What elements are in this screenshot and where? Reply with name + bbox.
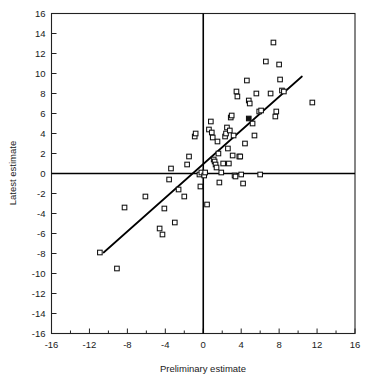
y-tick-label: 14 — [35, 28, 46, 39]
data-point — [247, 101, 252, 106]
data-point — [239, 172, 244, 177]
y-tick-label: -6 — [37, 228, 45, 239]
data-point — [245, 78, 250, 83]
data-point — [167, 177, 172, 182]
data-point — [219, 170, 224, 175]
data-points — [98, 40, 315, 271]
data-point — [176, 187, 181, 192]
y-tick-label: -10 — [32, 268, 46, 279]
data-point — [205, 202, 210, 207]
y-tick-label: 2 — [40, 148, 45, 159]
x-tick-label: -4 — [161, 339, 169, 350]
data-point — [157, 226, 162, 231]
x-tick-label: 16 — [350, 339, 361, 350]
data-point — [209, 130, 214, 135]
data-point-highlighted — [246, 116, 251, 121]
data-point — [252, 133, 257, 138]
x-tick-label: 8 — [276, 339, 281, 350]
data-point — [221, 161, 226, 166]
data-point — [250, 121, 255, 126]
data-point — [169, 166, 174, 171]
x-tick-label: -12 — [83, 339, 97, 350]
data-point — [238, 154, 243, 159]
data-point — [254, 91, 259, 96]
y-tick-label: 8 — [40, 88, 45, 99]
data-point — [310, 100, 315, 105]
data-point — [182, 194, 187, 199]
data-point — [274, 109, 279, 114]
data-point — [143, 194, 148, 199]
data-point — [193, 131, 198, 136]
data-point — [209, 119, 214, 124]
data-point — [231, 133, 236, 138]
plot-canvas: -16-12-8-40481216-16-14-12-10-8-6-4-2024… — [0, 0, 375, 380]
data-point — [230, 153, 235, 158]
x-axis-title: Preliminary estimate — [160, 363, 246, 374]
data-point — [227, 161, 232, 166]
y-tick-label: -16 — [32, 328, 46, 339]
data-point — [122, 205, 127, 210]
data-point — [229, 113, 234, 118]
data-point — [160, 232, 165, 237]
data-point — [234, 89, 239, 94]
data-point — [214, 165, 219, 170]
data-point — [210, 135, 215, 140]
y-tick-label: 12 — [35, 48, 46, 59]
y-tick-label: -2 — [37, 188, 45, 199]
data-point — [216, 151, 221, 156]
y-tick-label: -4 — [37, 208, 45, 219]
data-point — [187, 154, 192, 159]
x-tick-label: -8 — [123, 339, 131, 350]
data-point — [241, 181, 246, 186]
data-point — [217, 180, 222, 185]
y-tick-label: -14 — [32, 308, 46, 319]
data-point — [185, 162, 190, 167]
y-tick-label: -8 — [37, 248, 45, 259]
x-tick-label: 4 — [239, 339, 244, 350]
data-point — [173, 220, 178, 225]
y-tick-label: 6 — [40, 108, 45, 119]
y-tick-label: -12 — [32, 288, 46, 299]
data-point — [277, 62, 282, 67]
x-tick-label: 0 — [201, 339, 206, 350]
data-point — [264, 59, 269, 64]
data-point — [162, 206, 167, 211]
data-point — [226, 146, 231, 151]
data-point — [228, 128, 233, 133]
data-point — [282, 89, 287, 94]
y-axis-title: Latest estimate — [7, 141, 18, 205]
data-point — [98, 250, 103, 255]
data-point — [115, 266, 120, 271]
scatter-plot-figure: -16-12-8-40481216-16-14-12-10-8-6-4-2024… — [0, 0, 375, 380]
y-tick-label: 4 — [40, 128, 45, 139]
data-point — [259, 108, 264, 113]
data-point — [278, 77, 283, 82]
data-point — [203, 170, 208, 175]
data-point — [215, 139, 220, 144]
y-tick-label: 0 — [40, 168, 45, 179]
data-point — [273, 114, 278, 119]
data-point — [268, 91, 273, 96]
y-tick-label: 10 — [35, 68, 46, 79]
data-point — [258, 172, 263, 177]
data-point — [271, 40, 276, 45]
x-tick-label: -16 — [45, 339, 59, 350]
data-point — [198, 184, 203, 189]
data-point — [243, 141, 248, 146]
y-tick-label: 16 — [35, 8, 46, 19]
axis-tick-labels: -16-12-8-40481216-16-14-12-10-8-6-4-2024… — [32, 8, 361, 350]
x-tick-label: 12 — [312, 339, 323, 350]
data-point — [235, 94, 240, 99]
data-point — [233, 174, 238, 179]
